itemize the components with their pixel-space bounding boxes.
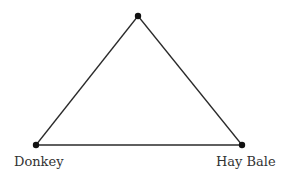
vertex-donkey bbox=[33, 142, 39, 148]
vertex-hay-bale bbox=[239, 142, 245, 148]
label-donkey: Donkey bbox=[14, 154, 64, 169]
triangle-diagram: Donkey Hay Bale bbox=[0, 0, 285, 181]
edge-top-to-hay-bale bbox=[138, 16, 242, 145]
vertex-top bbox=[135, 13, 141, 19]
edge-top-to-donkey bbox=[36, 16, 138, 145]
label-hay-bale: Hay Bale bbox=[216, 154, 276, 169]
